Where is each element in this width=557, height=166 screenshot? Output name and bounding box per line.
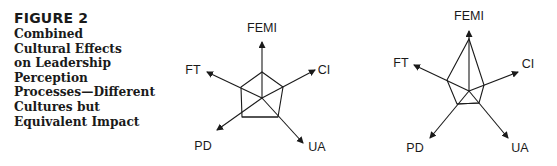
axis-label-ci: CI <box>318 63 331 77</box>
axis-label-femi: FEMI <box>247 21 277 35</box>
axis-label-pd: PD <box>194 139 211 153</box>
axis-label-ua: UA <box>511 141 529 155</box>
axis-arrow-ua <box>469 91 508 138</box>
profile-polygon <box>447 39 484 104</box>
axis-label-femi: FEMI <box>454 9 484 23</box>
axis-arrow-ci <box>469 72 518 91</box>
axis-label-pd: PD <box>406 141 423 155</box>
axis-arrow-pd <box>430 91 469 138</box>
axis-label-ft: FT <box>393 56 409 70</box>
axis-label-ft: FT <box>185 63 201 77</box>
axis-label-ua: UA <box>308 140 326 154</box>
radar-diagrams: FEMICIUAPDFT FEMICIUAPDFT <box>0 0 557 166</box>
axis-arrow-ua <box>262 98 303 143</box>
axis-arrow-ft <box>207 72 262 98</box>
axis-label-ci: CI <box>522 57 535 71</box>
axis-arrow-ft <box>414 65 469 91</box>
axis-arrow-pd <box>217 98 262 130</box>
radar-diagram-culture-a: FEMICIUAPDFT <box>185 21 330 154</box>
inner-line <box>457 103 479 104</box>
radar-diagram-culture-b: FEMICIUAPDFT <box>393 9 534 155</box>
axis-arrow-ci <box>262 70 315 98</box>
